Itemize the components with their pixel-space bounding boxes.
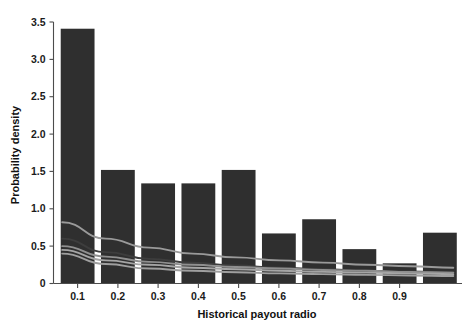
- x-tick-label: 0.6: [272, 290, 287, 302]
- y-tick-label: 1.5: [31, 165, 46, 177]
- chart-figure: 00.51.01.52.02.53.03.5 0.10.20.30.40.50.…: [0, 0, 467, 330]
- histogram-bar: [61, 29, 95, 284]
- x-tick-label: 0.1: [70, 290, 85, 302]
- y-tick-label: 1.0: [31, 202, 46, 214]
- x-tick-label: 0.8: [352, 290, 367, 302]
- x-tick-label: 0.2: [111, 290, 126, 302]
- histogram-bar: [342, 249, 376, 283]
- y-tick-label: 0.5: [31, 240, 46, 252]
- x-axis-title: Historical payout radio: [197, 308, 316, 320]
- x-tick-label: 0.4: [191, 290, 206, 302]
- y-tick-label: 2.5: [31, 90, 46, 102]
- x-tick-label: 0.3: [151, 290, 166, 302]
- y-tick-label: 3.5: [31, 16, 46, 28]
- y-tick-label: 0: [40, 277, 46, 289]
- x-tick-label: 0.5: [231, 290, 246, 302]
- x-tick-label: 0.9: [392, 290, 407, 302]
- y-tick-label: 3.0: [31, 53, 46, 65]
- y-axis-title: Probability density: [9, 105, 21, 204]
- probability-density-histogram: 00.51.01.52.02.53.03.5 0.10.20.30.40.50.…: [0, 0, 467, 330]
- x-tick-label: 0.7: [312, 290, 327, 302]
- histogram-bar: [262, 233, 296, 283]
- y-tick-label: 2.0: [31, 128, 46, 140]
